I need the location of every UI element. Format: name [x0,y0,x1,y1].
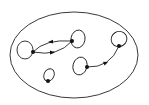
boundary-ellipse [10,12,138,98]
arrow-right-icon [50,50,55,54]
edge-n4-n3 [87,46,119,67]
loop-n2 [70,29,87,49]
graph-diagram [0,0,149,105]
loop-n1 [17,41,33,59]
node-n5 [46,79,50,83]
node-n3 [117,44,121,48]
node-n2 [70,39,74,43]
node-n1 [31,50,35,54]
node-n4 [85,65,89,69]
